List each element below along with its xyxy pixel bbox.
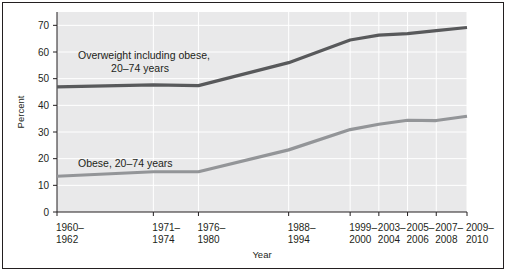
obese-annotation: Obese, 20–74 years: [78, 157, 173, 169]
x-tick-label-line1: 1988–: [288, 222, 316, 233]
x-tick-label-line2: 2006: [407, 234, 430, 245]
plot-area-background: [57, 12, 467, 212]
overweight-annotation-line1: Overweight including obese,: [78, 49, 210, 61]
x-tick-label-line1: 2005–: [407, 222, 435, 233]
chart-svg: 010203040506070 Percent Year 1960–196219…: [0, 0, 506, 271]
y-tick-label: 50: [38, 73, 50, 84]
x-tick-label-line1: 1960–: [56, 222, 84, 233]
y-tick-label: 30: [38, 127, 50, 138]
x-tick-label-line2: 2010: [466, 234, 489, 245]
x-tick-label-line2: 1980: [197, 234, 220, 245]
x-tick-label-line2: 2004: [378, 234, 401, 245]
y-tick-label: 10: [38, 180, 50, 191]
x-tick-label-line1: 2007–: [435, 222, 463, 233]
x-tick-label-line2: 2008: [435, 234, 458, 245]
x-tick-label-line1: 2009–: [466, 222, 494, 233]
y-tick-label: 20: [38, 153, 50, 164]
y-tick-label: 40: [38, 100, 50, 111]
x-tick-label-line2: 1974: [152, 234, 175, 245]
y-axis-title: Percent: [15, 95, 26, 128]
x-tick-label-line2: 1962: [56, 234, 79, 245]
y-tick-label: 70: [38, 20, 50, 31]
x-tick-label-line1: 2003–: [378, 222, 406, 233]
y-tick-label: 60: [38, 47, 50, 58]
overweight-annotation-line2: 20–74 years: [111, 62, 169, 74]
x-tick-label-line1: 1999–: [349, 222, 377, 233]
y-tick-label: 0: [43, 207, 49, 218]
x-tick-label-line1: 1971–: [152, 222, 180, 233]
x-axis-title: Year: [252, 249, 271, 260]
x-tick-label-line1: 1976–: [197, 222, 225, 233]
obesity-trend-chart: 010203040506070 Percent Year 1960–196219…: [0, 0, 506, 271]
x-tick-label-line2: 2000: [349, 234, 372, 245]
x-tick-label-line2: 1994: [288, 234, 311, 245]
